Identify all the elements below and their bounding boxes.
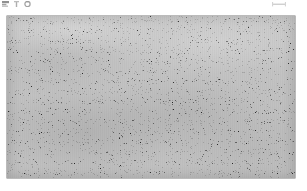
glyph-mark-3-icon [24,1,31,7]
page-root [0,0,307,191]
glyph-mark-1-icon [2,1,9,7]
header-bar [0,0,307,15]
dash-mark-icon [272,2,286,7]
edge-vignette-layer [7,16,295,178]
header-left-marks [2,1,31,7]
noisy-image-panel[interactable] [7,16,295,178]
glyph-mark-2-icon [14,1,19,7]
